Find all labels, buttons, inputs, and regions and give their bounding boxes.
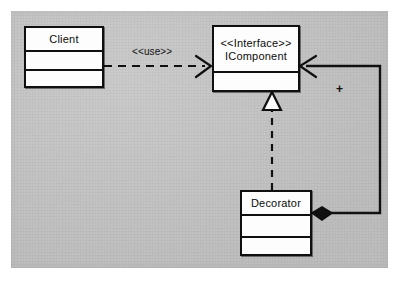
class-decorator-operations-compartment [242,236,310,258]
class-decorator-attributes-compartment [242,214,310,236]
class-box-client[interactable]: Client [24,26,104,88]
class-box-decorator[interactable]: Decorator [240,190,312,256]
class-client-name: Client [49,33,78,45]
class-icomponent-stereotype: <<Interface>> [220,37,291,49]
class-icomponent-name: IComponent [225,50,287,62]
use-dependency-label: <<use>> [132,46,172,57]
composition-connector [300,56,380,220]
class-icomponent-operations-compartment [214,71,298,94]
composition-diamond [312,207,332,220]
class-decorator-name: Decorator [251,197,301,209]
composition-multiplicity-label: + [336,82,343,96]
realization-connector [263,92,281,190]
class-icomponent-name-compartment: <<Interface>> IComponent [214,27,298,71]
class-decorator-name-compartment: Decorator [242,192,310,214]
class-box-icomponent[interactable]: <<Interface>> IComponent [212,25,300,92]
realization-triangle [263,92,281,110]
uml-diagram-root: Client <<Interface>> IComponent Decorato… [0,0,409,282]
class-client-attributes-compartment [26,50,102,69]
class-client-operations-compartment [26,69,102,88]
class-client-name-compartment: Client [26,28,102,50]
use-dependency-connector [104,56,211,77]
